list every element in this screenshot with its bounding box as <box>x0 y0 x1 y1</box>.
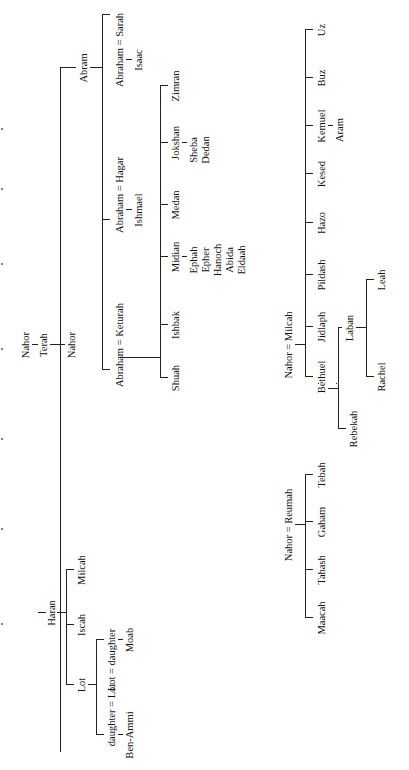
node-leah: Leah <box>376 270 387 291</box>
node-hanoch: Hanoch <box>212 244 223 277</box>
connector <box>328 388 338 389</box>
connector <box>295 524 305 525</box>
lot-unions-bar <box>96 640 97 735</box>
connector <box>305 29 313 30</box>
connector <box>305 617 313 618</box>
connector <box>102 369 110 370</box>
union-nahor-milcah: Nahor = Milcah <box>283 311 294 378</box>
page-artifact-dot <box>1 623 3 625</box>
node-lot: Lot <box>76 678 87 693</box>
milcah-children-bar <box>305 30 306 377</box>
union-lot-daughter: Lot = daughter <box>106 629 117 692</box>
connector <box>118 639 123 640</box>
connector <box>305 326 313 327</box>
connector <box>120 357 160 358</box>
node-medan: Medan <box>170 190 181 219</box>
node-gaham: Gaham <box>316 507 327 537</box>
connector <box>305 125 313 126</box>
haran-children-bar <box>66 570 67 685</box>
connector <box>338 428 346 429</box>
connector <box>356 327 366 328</box>
page-artifact-dot <box>1 263 3 265</box>
connector <box>160 324 168 325</box>
connector <box>58 612 66 613</box>
connector <box>160 204 168 205</box>
node-tebah: Tebah <box>316 462 327 488</box>
node-jidlaph: Jidlaph <box>316 312 327 342</box>
node-rebekah: Rebekah <box>348 411 359 448</box>
node-tahash: Tahash <box>316 555 327 585</box>
node-isaac: Isaac <box>133 49 144 71</box>
connector <box>60 344 65 345</box>
connector <box>338 327 342 328</box>
union-abraham-keturah: Abraham = Keturah <box>114 303 125 387</box>
connector <box>60 751 61 752</box>
connector <box>318 383 319 384</box>
node-dedan: Dedan <box>200 136 211 163</box>
connector <box>305 173 313 174</box>
node-bethuel: Bethuel <box>316 361 327 394</box>
node-hazo: Hazo <box>316 212 327 234</box>
sons-bar <box>60 68 61 752</box>
node-ben-ammi: Ben-Ammi <box>124 711 135 758</box>
node-epher: Epher <box>200 247 211 272</box>
connector <box>160 377 168 378</box>
page-artifact-dot <box>1 528 3 530</box>
connector <box>305 569 313 570</box>
node-ishbak: Ishbak <box>170 311 181 339</box>
node-terah: Terah <box>38 333 49 357</box>
connector <box>66 624 74 625</box>
connector <box>90 67 102 68</box>
node-milcah: Milcah <box>76 555 87 585</box>
node-abram: Abram <box>78 53 89 82</box>
reumah-children-bar <box>305 475 306 618</box>
node-kesed: Kesed <box>316 161 327 187</box>
connector <box>50 344 60 345</box>
connector <box>305 474 313 475</box>
node-haran: Haran <box>46 598 57 628</box>
connector <box>96 639 104 640</box>
union-abraham-sarah: Abraham = Sarah <box>114 13 125 87</box>
node-kemuel: Kemuel <box>316 109 327 142</box>
node-abida: Abida <box>224 247 235 273</box>
connector <box>160 142 168 143</box>
page-artifact-dot <box>1 348 3 350</box>
connector <box>66 569 74 570</box>
connector <box>160 85 168 86</box>
node-uz: Uz <box>316 24 327 36</box>
keturah-children-bar <box>160 86 161 378</box>
connector <box>102 219 110 220</box>
union-abraham-hagar: Abraham = Hagar <box>114 157 125 233</box>
connector <box>160 256 168 257</box>
page-artifact-dot <box>1 438 3 440</box>
connector <box>66 684 74 685</box>
node-ephah: Ephah <box>188 247 199 274</box>
page-artifact-dot <box>1 188 3 190</box>
node-sheba: Sheba <box>188 137 199 163</box>
node-shuah: Shuah <box>170 365 181 391</box>
genealogy-diagram: Nahor Terah Nahor Abram Abraham = Sarah … <box>0 0 409 770</box>
connector <box>305 222 313 223</box>
node-ishmael: Ishmael <box>133 193 144 226</box>
union-nahor-reumah: Nahor = Reumah <box>283 489 294 561</box>
node-moab: Moab <box>124 628 135 653</box>
node-buz: Buz <box>316 70 327 87</box>
connector <box>88 684 96 685</box>
connector <box>366 279 374 280</box>
bethuel-children-bar <box>338 328 339 429</box>
connector <box>126 59 132 60</box>
node-nahor-son: Nahor <box>66 332 77 358</box>
connector <box>366 376 374 377</box>
laban-children-bar <box>366 280 367 377</box>
node-midian: Midian <box>170 242 181 272</box>
node-laban: Laban <box>344 315 355 341</box>
connector <box>60 67 76 68</box>
connector <box>118 734 123 735</box>
connector <box>328 125 333 126</box>
node-zimran: Zimran <box>170 71 181 102</box>
connector <box>305 77 313 78</box>
node-eldaah: Eldaah <box>236 245 247 274</box>
node-jokshan: Jokshan <box>170 126 181 160</box>
node-pildash: Pildash <box>316 260 327 291</box>
connector <box>336 383 337 384</box>
